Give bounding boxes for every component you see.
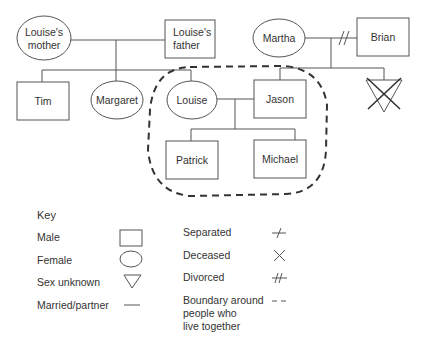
person-label: mother [28, 39, 61, 51]
person-label: Jason [266, 93, 294, 105]
person-louises-mother: Louise's mother [17, 16, 71, 60]
key-item-married: Married/partner [37, 299, 140, 311]
person-label: father [173, 39, 200, 51]
person-patrick: Patrick [166, 141, 218, 179]
key-item-deceased: Deceased [183, 249, 285, 261]
person-label: Michael [262, 153, 298, 165]
person-unknown-deceased [366, 78, 402, 112]
genogram-diagram: Louise's mother Louise's father Martha B… [0, 0, 424, 345]
key-label: Deceased [183, 249, 230, 261]
person-martha: Martha [253, 19, 305, 57]
person-louises-father: Louise's father [165, 20, 215, 58]
person-louise: Louise [167, 81, 217, 119]
person-michael: Michael [254, 140, 306, 178]
key-item-boundary: Boundary around people who live together [183, 294, 286, 332]
person-label: Louise's [25, 26, 63, 38]
female-symbol [17, 16, 71, 60]
male-symbol-icon [120, 230, 142, 246]
person-tim: Tim [17, 82, 69, 120]
person-brian: Brian [357, 18, 409, 56]
key-item-separated: Separated [183, 226, 286, 238]
key-title: Key [37, 209, 56, 221]
key-item-female: Female [37, 251, 142, 267]
person-label: Louise [177, 94, 208, 106]
person-label: Louise's [173, 26, 211, 38]
key-label: Female [37, 254, 72, 266]
sex-unknown-symbol [366, 80, 402, 112]
sex-unknown-symbol-icon [124, 275, 141, 288]
person-label: Patrick [176, 154, 209, 166]
person-label: Martha [263, 32, 296, 44]
female-symbol-icon [120, 251, 142, 267]
key-label: Male [37, 231, 60, 243]
key-item-sex-unknown: Sex unknown [37, 275, 141, 288]
key-label: Separated [183, 226, 232, 238]
key-label: Boundary around [183, 294, 264, 306]
person-label: Brian [371, 31, 396, 43]
key-item-divorced: Divorced [183, 271, 287, 283]
person-jason: Jason [254, 80, 306, 118]
key-label: Sex unknown [37, 276, 100, 288]
key-label: people who [183, 307, 237, 319]
person-label: Margaret [96, 94, 138, 106]
key-label: Divorced [183, 271, 225, 283]
person-margaret: Margaret [91, 81, 143, 119]
key-item-male: Male [37, 230, 142, 246]
key-legend: Key Male Female Sex unknown Married/part… [37, 209, 287, 332]
key-label: Married/partner [37, 299, 109, 311]
key-label: live together [183, 320, 241, 332]
person-label: Tim [34, 95, 51, 107]
